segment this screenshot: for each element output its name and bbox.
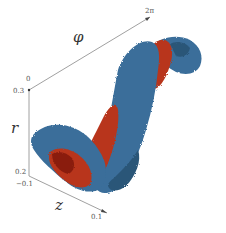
phi-tick-start: 0 bbox=[26, 75, 30, 83]
3d-helical-surface-figure: φ 2π 0 0.3 r 0.2 −0.1 z 0.1 bbox=[0, 0, 226, 233]
z-tick-start: −0.1 bbox=[16, 180, 33, 188]
r-tick-top: 0.3 bbox=[13, 87, 24, 95]
phi-axis-arrow-icon bbox=[145, 17, 150, 21]
phi-axis-label: φ bbox=[73, 28, 84, 46]
plot-canvas bbox=[0, 0, 226, 233]
helical-surface bbox=[31, 37, 202, 193]
z-tick-end: 0.1 bbox=[91, 213, 102, 221]
r-axis-label: r bbox=[11, 119, 18, 137]
axis-origin-dot bbox=[28, 89, 30, 91]
phi-tick-end: 2π bbox=[145, 7, 154, 15]
z-axis-label: z bbox=[55, 196, 63, 214]
r-tick-bottom: 0.2 bbox=[15, 168, 26, 176]
